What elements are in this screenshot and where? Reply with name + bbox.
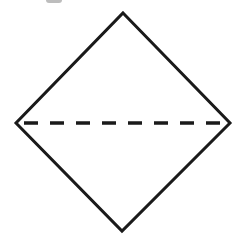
diagram-canvas: [0, 0, 238, 237]
cropped-mark-fragment: [46, 0, 62, 3]
diamond-figure: [0, 0, 238, 237]
diamond-outline: [16, 13, 230, 231]
